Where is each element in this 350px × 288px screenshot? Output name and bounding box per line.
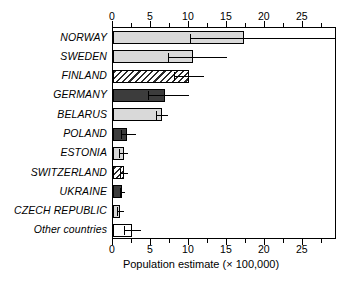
x-tick-label: 15 <box>220 10 232 22</box>
error-bar <box>120 173 128 174</box>
x-axis-title: Population estimate (× 100,000) <box>0 258 350 270</box>
error-bar-cap <box>117 207 118 216</box>
x-tick-label: 10 <box>182 243 194 255</box>
plot-area <box>112 27 336 239</box>
x-tick-mark <box>131 23 132 27</box>
error-bar-cap <box>148 91 149 100</box>
error-bar <box>121 134 135 135</box>
error-bar <box>117 211 125 212</box>
x-tick-mark <box>245 23 246 27</box>
error-bar <box>148 95 189 96</box>
x-tick-mark <box>169 239 170 243</box>
x-tick-mark <box>131 239 132 243</box>
x-tick-label: 5 <box>147 10 153 22</box>
error-bar-cap <box>119 149 120 158</box>
x-tick-mark <box>207 239 208 243</box>
category-label: SWITZERLAND <box>31 166 107 178</box>
error-bar-cap <box>121 130 122 139</box>
x-tick-label: 20 <box>258 243 270 255</box>
error-bar-cap <box>120 169 121 178</box>
x-tick-label: 25 <box>296 243 308 255</box>
category-label: ESTONIA <box>60 146 107 158</box>
category-label: Other countries <box>34 223 107 235</box>
category-label: CZECH REPUBLIC <box>14 204 107 216</box>
error-bar <box>190 38 336 39</box>
x-tick-label: 15 <box>220 243 232 255</box>
x-axis-title-text: Population estimate (× 100,000) <box>123 258 279 270</box>
error-bar-cap <box>174 72 175 81</box>
error-bar <box>119 153 128 154</box>
x-tick-label: 5 <box>147 243 153 255</box>
error-bar-cap <box>156 111 157 120</box>
x-tick-mark <box>169 23 170 27</box>
error-bar-cap <box>120 188 121 197</box>
category-label: POLAND <box>63 127 107 139</box>
category-label: GERMANY <box>53 88 107 100</box>
error-bar-cap <box>190 34 191 43</box>
bar-chart: Population estimate (× 100,000) 00551010… <box>0 0 350 288</box>
x-tick-label: 25 <box>296 10 308 22</box>
error-bar <box>156 115 169 116</box>
error-bar <box>124 230 141 231</box>
x-tick-mark <box>321 23 322 27</box>
x-tick-label: 10 <box>182 10 194 22</box>
x-tick-mark <box>321 239 322 243</box>
error-bar-cap <box>124 226 125 235</box>
x-tick-label: 20 <box>258 10 270 22</box>
category-label: FINLAND <box>61 69 107 81</box>
category-label: SWEDEN <box>60 50 107 62</box>
x-tick-label: 0 <box>109 10 115 22</box>
x-tick-mark <box>283 239 284 243</box>
bar <box>113 108 162 121</box>
category-label: BELARUS <box>57 108 107 120</box>
error-bar-cap <box>168 53 169 62</box>
error-bar <box>174 76 204 77</box>
x-tick-mark <box>245 239 246 243</box>
x-tick-label: 0 <box>109 243 115 255</box>
x-tick-mark <box>207 23 208 27</box>
x-tick-mark <box>283 23 284 27</box>
error-bar <box>168 57 226 58</box>
category-label: NORWAY <box>60 31 107 43</box>
category-label: UKRAINE <box>60 185 107 197</box>
